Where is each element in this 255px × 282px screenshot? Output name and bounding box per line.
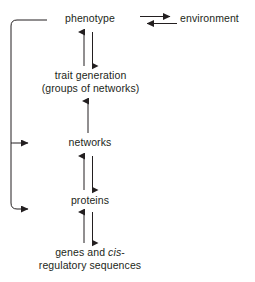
diagram-canvas: phenotype environment trait generation (… bbox=[0, 0, 255, 282]
node-phenotype: phenotype bbox=[50, 12, 130, 25]
node-genes-line1-prefix: genes and bbox=[55, 246, 108, 258]
node-genes-line2: regulatory sequences bbox=[39, 259, 141, 271]
node-networks: networks bbox=[50, 136, 130, 149]
node-trait-generation: trait generation (groups of networks) bbox=[33, 69, 148, 94]
node-proteins: proteins bbox=[50, 194, 130, 207]
node-environment: environment bbox=[180, 12, 255, 25]
node-genes-cis-regulatory: genes and cis- regulatory sequences bbox=[30, 246, 150, 271]
node-genes-line1-italic: cis bbox=[108, 246, 121, 258]
node-trait-generation-line2: (groups of networks) bbox=[42, 82, 140, 94]
node-trait-generation-line1: trait generation bbox=[55, 69, 127, 81]
node-genes-line1-suffix: - bbox=[121, 246, 125, 258]
edge-phenotype-feedback-trunk bbox=[11, 20, 47, 209]
